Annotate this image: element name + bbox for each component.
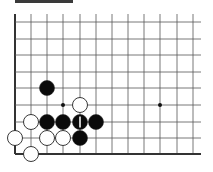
white-stone [24,147,39,162]
star-point [158,103,162,107]
white-stone [8,131,23,146]
white-stone [73,98,88,113]
black-stone [73,131,88,146]
black-stone [89,115,104,130]
black-stone [40,115,55,130]
star-point [61,103,65,107]
black-stone [40,81,55,96]
move-number-label [79,117,81,128]
white-stone [56,131,71,146]
white-stone [24,115,39,130]
black-stone [56,115,71,130]
go-board [0,0,213,172]
white-stone [40,131,55,146]
